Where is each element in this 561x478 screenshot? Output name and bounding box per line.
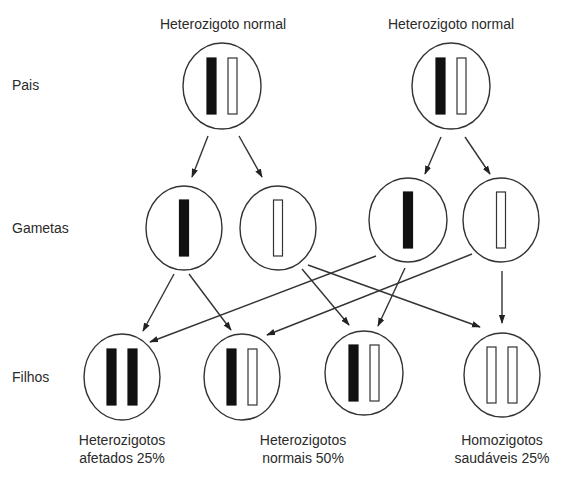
normal-chromosome xyxy=(370,345,379,401)
caption-normal-line2: normais 50% xyxy=(260,449,346,467)
normal-chromosome xyxy=(487,347,496,403)
cell-outline xyxy=(84,334,160,420)
normal-chromosome xyxy=(457,58,466,114)
row-label-children: Filhos xyxy=(12,368,49,386)
affected-chromosome xyxy=(128,349,137,405)
gamete-cell-1 xyxy=(240,186,316,270)
normal-chromosome xyxy=(508,347,517,403)
row-label-parents: Pais xyxy=(12,76,39,94)
child-cell-1 xyxy=(204,334,280,420)
arrow-10 xyxy=(378,268,405,326)
normal-chromosome xyxy=(248,349,257,405)
child-cell-3 xyxy=(464,333,540,417)
arrow-1 xyxy=(239,136,262,177)
gamete-cell-0 xyxy=(146,186,222,270)
cell-outline xyxy=(412,43,490,129)
normal-chromosome xyxy=(497,192,506,248)
parent-cell-0 xyxy=(183,43,261,129)
affected-chromosome xyxy=(436,58,445,114)
normal-chromosome xyxy=(228,58,237,114)
arrow-9 xyxy=(308,265,480,327)
affected-chromosome xyxy=(207,58,216,114)
caption-healthy: Homozigotos saudáveis 25% xyxy=(455,431,550,467)
parent-title-right: Heterozigoto normal xyxy=(388,15,514,33)
caption-healthy-line1: Homozigotos xyxy=(455,431,550,449)
parent-cell-1 xyxy=(412,43,490,129)
child-cell-0 xyxy=(84,334,160,420)
parent-title-left: Heterozigoto normal xyxy=(160,15,286,33)
cell-outline xyxy=(325,331,403,415)
gamete-cell-3 xyxy=(463,178,539,262)
affected-chromosome xyxy=(349,345,358,401)
row-label-gametes: Gametas xyxy=(12,219,69,237)
normal-chromosome xyxy=(274,200,283,256)
arrow-2 xyxy=(425,137,441,174)
arrow-4 xyxy=(143,274,174,331)
gamete-cell-2 xyxy=(369,178,447,262)
caption-normal-carriers: Heterozigotos normais 50% xyxy=(260,431,346,467)
inheritance-diagram xyxy=(0,0,561,478)
cell-outline xyxy=(183,43,261,129)
cell-outline xyxy=(204,334,280,420)
affected-chromosome xyxy=(227,349,236,405)
arrow-0 xyxy=(192,136,208,177)
child-cell-2 xyxy=(325,331,403,415)
affected-chromosome xyxy=(107,349,116,405)
affected-chromosome xyxy=(180,200,189,256)
cells xyxy=(84,43,540,420)
arrow-7 xyxy=(267,254,472,335)
cell-outline xyxy=(464,333,540,417)
affected-chromosome xyxy=(404,192,413,248)
arrow-5 xyxy=(189,274,231,330)
caption-affected-line2: afetados 25% xyxy=(79,449,165,467)
caption-affected: Heterozigotos afetados 25% xyxy=(79,431,165,467)
caption-healthy-line2: saudáveis 25% xyxy=(455,449,550,467)
caption-normal-line1: Heterozigotos xyxy=(260,431,346,449)
caption-affected-line1: Heterozigotos xyxy=(79,431,165,449)
arrow-3 xyxy=(465,137,490,174)
